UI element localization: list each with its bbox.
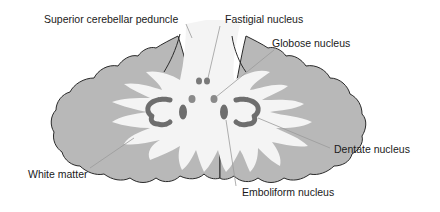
- cerebellum-diagram: Superior cerebellar peduncle Fastigial n…: [0, 0, 440, 212]
- label-dentate-nucleus: Dentate nucleus: [334, 143, 410, 155]
- fastigial-nucleus-right: [204, 78, 210, 85]
- fastigial-nucleus-left: [196, 78, 202, 85]
- label-globose-nucleus: Globose nucleus: [272, 37, 350, 49]
- label-superior-cerebellar-peduncle: Superior cerebellar peduncle: [44, 13, 178, 25]
- emboliform-nucleus-right: [220, 105, 228, 120]
- label-fastigial-nucleus: Fastigial nucleus: [225, 13, 303, 25]
- emboliform-nucleus-left: [179, 105, 187, 120]
- label-emboliform-nucleus: Emboliform nucleus: [242, 186, 334, 198]
- cerebellum-illustration: [0, 0, 440, 212]
- label-white-matter: White matter: [28, 168, 88, 180]
- globose-nucleus-left: [189, 95, 196, 103]
